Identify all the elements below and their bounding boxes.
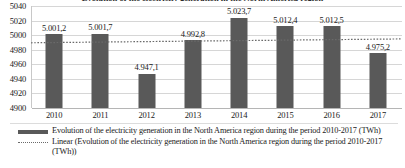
y-axis-tick-label: 4900 (10, 104, 26, 113)
trendline-series (31, 6, 401, 108)
x-axis-labels: 20102011201220132014201520162017 (31, 110, 401, 122)
y-axis-tick-label: 4940 (10, 75, 26, 84)
y-axis-tick-label: 4980 (10, 45, 26, 54)
x-axis-tick-label: 2015 (277, 110, 293, 120)
dotted-line-swatch-icon (18, 141, 48, 143)
x-axis-tick-label: 2013 (185, 110, 201, 120)
chart-container: Evolution of the electricity generation … (0, 0, 405, 168)
y-axis-tick-label: 5000 (10, 31, 26, 40)
y-axis-tick-label: 5040 (10, 2, 26, 11)
y-axis-tick-label: 5020 (10, 16, 26, 25)
bar-swatch-icon (18, 130, 48, 134)
legend-item-trendline: Linear (Evolution of the electricity gen… (10, 137, 402, 157)
linear-trendline (31, 39, 401, 43)
gridline (32, 108, 402, 109)
x-axis-tick-label: 2011 (92, 110, 108, 120)
y-axis-tick-label: 4960 (10, 60, 26, 69)
legend-item-bars: Evolution of the electricity generation … (10, 126, 402, 136)
x-axis-tick-label: 2010 (46, 110, 62, 120)
legend-label-bars: Evolution of the electricity generation … (52, 126, 381, 136)
y-axis-labels: 49004920494049604980500050205040 (0, 6, 29, 108)
chart-legend: Evolution of the electricity generation … (10, 126, 402, 158)
y-axis-tick-label: 4920 (10, 89, 26, 98)
x-axis-tick-label: 2012 (139, 110, 155, 120)
x-axis-tick-label: 2017 (370, 110, 386, 120)
x-axis-tick-label: 2016 (324, 110, 340, 120)
legend-label-trendline: Linear (Evolution of the electricity gen… (52, 137, 400, 157)
legend-separator (10, 123, 398, 124)
chart-title: Evolution of the electricity generation … (0, 0, 405, 1)
x-axis-tick-label: 2014 (231, 110, 247, 120)
